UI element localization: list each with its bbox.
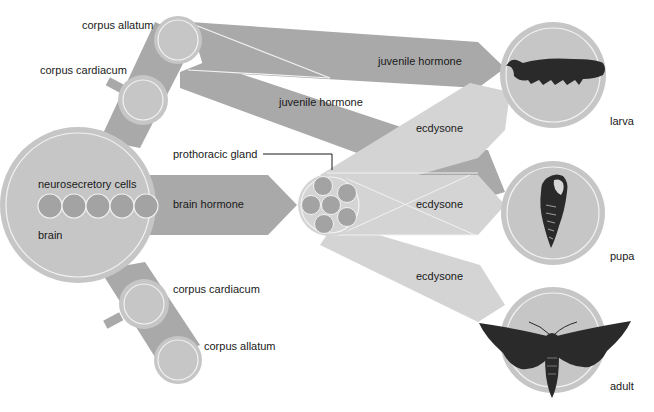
label-ecdysone-3: ecdysone — [416, 270, 463, 283]
ecdysone-arrow-3 — [320, 228, 505, 322]
label-brain: brain — [38, 229, 62, 242]
label-juvenile-hormone-1: juvenile hormone — [378, 55, 462, 68]
neurosecretory-cells — [38, 194, 158, 218]
corpus-allatum-top — [154, 16, 202, 64]
label-brain-hormone: brain hormone — [173, 198, 244, 211]
corpus-cardiacum-top — [118, 75, 168, 125]
prothoracic-gland — [298, 174, 362, 236]
lower-cardiacum-stub — [103, 312, 123, 328]
label-corpus-cardiacum-bottom: corpus cardiacum — [173, 283, 260, 296]
label-adult: adult — [610, 380, 634, 393]
label-larva: larva — [610, 115, 634, 128]
label-neurosecretory-cells: neurosecretory cells — [38, 178, 136, 191]
diagram-graphics — [0, 0, 654, 412]
label-pupa: pupa — [610, 250, 634, 263]
label-ecdysone-2: ecdysone — [416, 198, 463, 211]
metamorphosis-diagram: corpus allatum corpus cardiacum neurosec… — [0, 0, 654, 412]
label-corpus-allatum-bottom: corpus allatum — [204, 340, 276, 353]
corpus-allatum-bottom — [154, 336, 202, 384]
label-corpus-cardiacum-top: corpus cardiacum — [40, 64, 127, 77]
label-prothoracic-gland: prothoracic gland — [173, 148, 257, 161]
label-ecdysone-1: ecdysone — [416, 122, 463, 135]
label-juvenile-hormone-2: juvenile hormone — [279, 96, 363, 109]
corpus-cardiacum-bottom — [119, 279, 169, 329]
label-corpus-allatum-top: corpus allatum — [82, 19, 154, 32]
prothoracic-gland-leader — [263, 154, 332, 170]
